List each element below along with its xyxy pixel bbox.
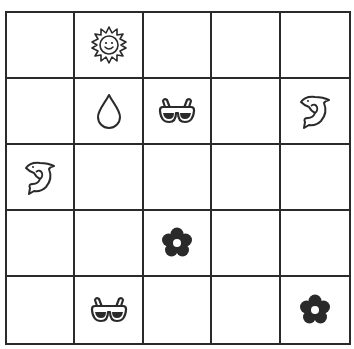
sun-icon: [89, 25, 129, 65]
grid-cell-r3-c2[interactable]: [75, 145, 143, 211]
grid-cell-r1-c2[interactable]: [75, 13, 143, 79]
grid-cell-r3-c5[interactable]: [281, 145, 349, 211]
grid-cell-r5-c4[interactable]: [212, 277, 280, 343]
dolphin-icon: [20, 157, 60, 197]
grid-cell-r5-c1[interactable]: [7, 277, 75, 343]
grid-cell-r5-c5[interactable]: [281, 277, 349, 343]
grid-cell-r1-c1[interactable]: [7, 13, 75, 79]
grid-cell-r2-c5[interactable]: [281, 79, 349, 145]
grid-cell-r1-c5[interactable]: [281, 13, 349, 79]
grid-cell-r4-c3[interactable]: [144, 211, 212, 277]
water-drop-icon: [89, 91, 129, 131]
sunglasses-icon: [89, 290, 129, 330]
grid-cell-r4-c1[interactable]: [7, 211, 75, 277]
dolphin-icon: [295, 91, 335, 131]
grid-cell-r5-c3[interactable]: [144, 277, 212, 343]
grid-cell-r2-c3[interactable]: [144, 79, 212, 145]
grid-cell-r2-c1[interactable]: [7, 79, 75, 145]
grid-cell-r5-c2[interactable]: [75, 277, 143, 343]
grid-cell-r2-c2[interactable]: [75, 79, 143, 145]
grid-cell-r3-c4[interactable]: [212, 145, 280, 211]
flower-icon: [295, 290, 335, 330]
grid-cell-r4-c2[interactable]: [75, 211, 143, 277]
flower-icon: [157, 223, 197, 263]
grid-cell-r2-c4[interactable]: [212, 79, 280, 145]
sunglasses-icon: [157, 91, 197, 131]
grid-cell-r3-c1[interactable]: [7, 145, 75, 211]
grid-cell-r1-c3[interactable]: [144, 13, 212, 79]
grid-cell-r3-c3[interactable]: [144, 145, 212, 211]
grid-cell-r1-c4[interactable]: [212, 13, 280, 79]
grid-cell-r4-c5[interactable]: [281, 211, 349, 277]
game-grid: [5, 11, 351, 345]
grid-cell-r4-c4[interactable]: [212, 211, 280, 277]
